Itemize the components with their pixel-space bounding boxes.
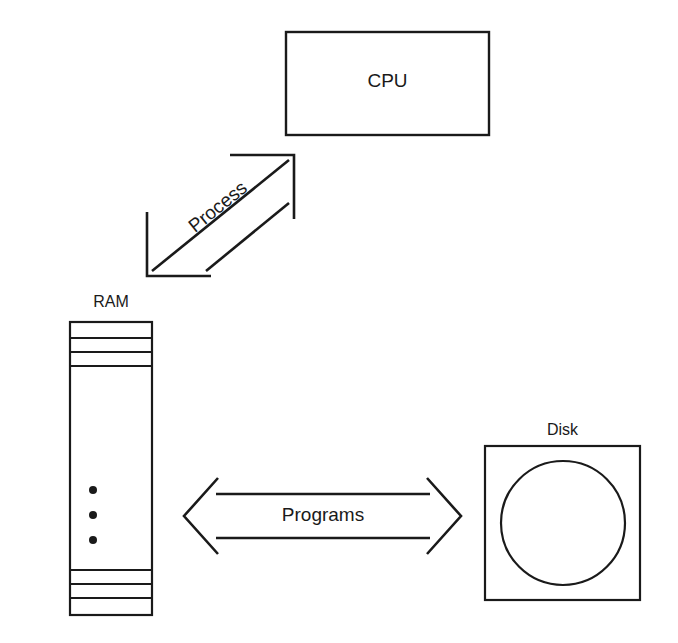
ram-ellipsis-dot-1 (89, 486, 97, 494)
disk-platter-circle (501, 461, 625, 585)
ram-node[interactable] (70, 322, 152, 615)
diagram-canvas: CPU RAM Disk Programs Process (0, 0, 678, 643)
programs-arrowhead-right (427, 478, 461, 554)
programs-arrowhead-left (184, 478, 218, 554)
diagram-svg (0, 0, 678, 643)
disk-node[interactable] (485, 446, 640, 600)
programs-edge-label: Programs (253, 504, 393, 526)
ram-ellipsis-dot-3 (89, 536, 97, 544)
ram-label: RAM (70, 293, 152, 311)
disk-label: Disk (485, 421, 640, 439)
ram-ellipsis-dot-2 (89, 511, 97, 519)
cpu-label: CPU (286, 70, 489, 92)
